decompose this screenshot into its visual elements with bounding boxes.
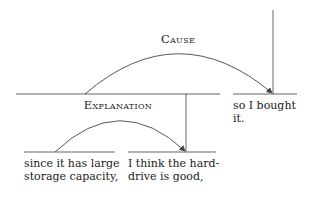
segment-1-line-2: storage capacity,: [24, 170, 120, 183]
segment-3-line-2: it.: [233, 112, 296, 125]
segment-2-line-2: drive is good,: [128, 170, 219, 183]
segment-2-line-1: I think the hard-: [128, 157, 219, 170]
segment-1: since it has large storage capacity,: [24, 157, 120, 183]
segment-3-line-1: so I bought: [233, 99, 296, 112]
cause-arc: [85, 54, 272, 94]
relation-label-cause: Cause: [161, 32, 195, 46]
segment-3: so I bought it.: [233, 99, 296, 125]
segment-1-line-1: since it has large: [24, 157, 120, 170]
segment-2: I think the hard- drive is good,: [128, 157, 219, 183]
relation-label-explanation: Explanation: [84, 98, 152, 112]
explanation-arc: [55, 121, 185, 152]
